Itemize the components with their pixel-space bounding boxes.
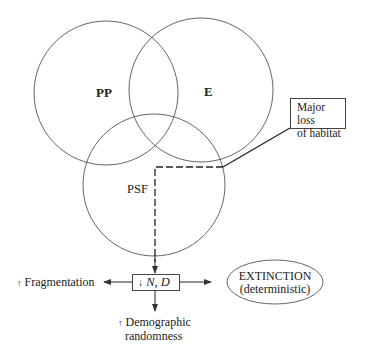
increase-arrow-icon: ↑ <box>17 278 22 288</box>
e-label: E <box>204 85 213 98</box>
habitat-connector-line <box>223 128 290 167</box>
habitat-line-2: of habitat <box>297 127 345 140</box>
extinction-label: EXTINCTION (deterministic) <box>233 270 317 296</box>
decrease-arrow-icon: ↓ <box>138 277 143 288</box>
increase-arrow-icon: ↑ <box>118 318 123 328</box>
habitat-box: Major loss of habitat <box>290 98 346 129</box>
demographic-label: ↑ Demographic randomness <box>118 316 191 343</box>
nd-label: N, D <box>146 275 170 289</box>
psf-circle <box>83 114 225 256</box>
nd-box: ↓ N, D <box>132 274 180 291</box>
habitat-line-1: Major loss <box>297 101 345 127</box>
psf-label: PSF <box>127 183 148 196</box>
pp-label: PP <box>96 86 112 99</box>
habitat-dashed-path <box>155 167 223 262</box>
e-circle <box>129 18 273 162</box>
fragmentation-label: ↑ Fragmentation <box>17 276 94 288</box>
